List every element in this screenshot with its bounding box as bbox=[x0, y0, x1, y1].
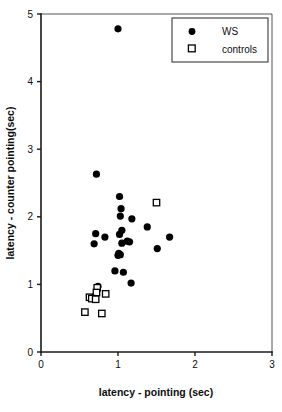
data-point bbox=[153, 199, 159, 205]
x-axis-title: latency - pointing (sec) bbox=[99, 386, 213, 398]
legend-box bbox=[172, 18, 268, 62]
legend-marker-ws bbox=[189, 28, 196, 35]
data-point bbox=[114, 252, 121, 259]
series-ws bbox=[91, 25, 174, 290]
data-point bbox=[92, 296, 98, 302]
y-axis-ticks: 012345 bbox=[27, 9, 41, 358]
legend-marker-controls bbox=[188, 45, 195, 52]
x-axis-ticks: 0123 bbox=[38, 352, 275, 370]
y-tick-label: 3 bbox=[27, 144, 33, 155]
plot-frame bbox=[41, 14, 272, 352]
data-point bbox=[91, 240, 98, 247]
data-point bbox=[120, 269, 127, 276]
x-tick-label: 3 bbox=[269, 359, 275, 370]
data-point bbox=[117, 213, 124, 220]
data-point bbox=[102, 291, 108, 297]
data-point bbox=[127, 279, 134, 286]
legend-label-ws: WS bbox=[222, 26, 238, 37]
data-point bbox=[128, 215, 135, 222]
chart-canvas: 0123 012345 latency - pointing (sec) lat… bbox=[0, 0, 282, 412]
data-point bbox=[92, 230, 99, 237]
data-point bbox=[117, 205, 124, 212]
x-tick-label: 2 bbox=[192, 359, 198, 370]
data-point bbox=[118, 240, 125, 247]
data-point bbox=[166, 233, 173, 240]
data-point bbox=[116, 193, 123, 200]
y-tick-label: 4 bbox=[27, 76, 33, 87]
axes bbox=[41, 14, 272, 352]
y-tick-label: 2 bbox=[27, 211, 33, 222]
data-point bbox=[154, 245, 161, 252]
data-point bbox=[116, 231, 123, 238]
data-point bbox=[93, 171, 100, 178]
y-axis-title: latency - counter pointing(sec) bbox=[4, 107, 16, 260]
data-point bbox=[111, 267, 118, 274]
y-tick-label: 0 bbox=[27, 347, 33, 358]
data-point bbox=[126, 238, 133, 245]
data-point bbox=[99, 310, 105, 316]
legend-label-controls: controls bbox=[222, 44, 257, 55]
data-point bbox=[101, 233, 108, 240]
data-point bbox=[114, 25, 121, 32]
y-tick-label: 5 bbox=[27, 9, 33, 20]
data-point bbox=[82, 309, 88, 315]
y-tick-label: 1 bbox=[27, 279, 33, 290]
legend: WS controls bbox=[172, 18, 268, 62]
x-tick-label: 1 bbox=[115, 359, 121, 370]
x-tick-label: 0 bbox=[38, 359, 44, 370]
scatter-plot-figure: 0123 012345 latency - pointing (sec) lat… bbox=[0, 0, 282, 412]
data-point bbox=[144, 223, 151, 230]
data-points-layer bbox=[82, 25, 173, 316]
